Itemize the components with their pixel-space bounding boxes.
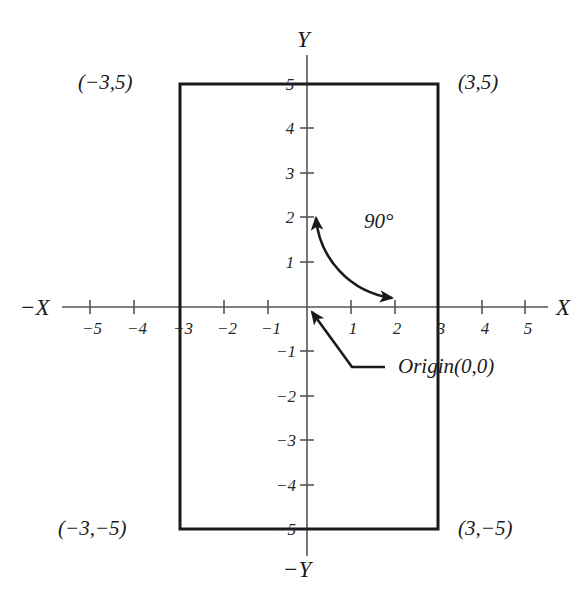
axis-label-positive-y: Y xyxy=(297,28,310,51)
y-tick-label-3: 3 xyxy=(286,165,295,182)
axis-label-negative-y: −Y xyxy=(283,558,311,581)
y-tick-label-1: 1 xyxy=(286,254,295,271)
x-tick-label--1: −1 xyxy=(261,320,281,337)
x-tick-label--4: −4 xyxy=(127,320,147,337)
y-tick-label--4: −4 xyxy=(276,477,296,494)
x-tick-label--5: −5 xyxy=(82,320,102,337)
angle-label: 90° xyxy=(364,211,393,232)
axis-label-positive-x: X xyxy=(556,296,570,319)
x-tick-label-2: 2 xyxy=(393,320,402,337)
y-tick-label-5: 5 xyxy=(286,76,295,93)
x-tick-label--3: −3 xyxy=(173,320,193,337)
corner-label-top-right: (3,5) xyxy=(458,72,498,93)
y-tick-label--1: −1 xyxy=(276,343,296,360)
coordinate-plane-figure: −X X Y −Y −5 −4 −3 −2 −1 1 2 3 4 5 5 4 3… xyxy=(0,0,585,591)
axis-label-negative-x: −X xyxy=(20,296,50,319)
x-tick-label-5: 5 xyxy=(524,320,533,337)
y-tick-label-2: 2 xyxy=(286,209,295,226)
corner-label-top-left: (−3,5) xyxy=(78,72,132,93)
x-tick-label-1: 1 xyxy=(349,320,358,337)
y-tick-label--3: −3 xyxy=(276,432,296,449)
x-tick-label-4: 4 xyxy=(481,320,490,337)
y-tick-label--5: −5 xyxy=(276,521,296,538)
x-tick-label--2: −2 xyxy=(217,320,237,337)
y-tick-label-4: 4 xyxy=(286,120,295,137)
corner-label-bottom-left: (−3,−5) xyxy=(58,518,127,539)
corner-label-bottom-right: (3,−5) xyxy=(458,518,512,539)
origin-label: Origin(0,0) xyxy=(398,356,494,377)
x-tick-label-3: 3 xyxy=(437,320,446,337)
y-tick-label--2: −2 xyxy=(276,388,296,405)
